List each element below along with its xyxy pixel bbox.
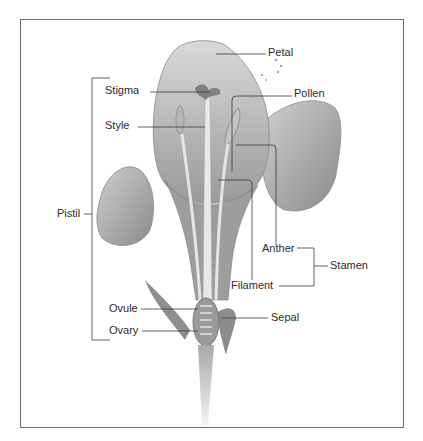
- label-pollen: Pollen: [294, 88, 325, 99]
- label-ovule: Ovule: [109, 303, 138, 314]
- label-stigma: Stigma: [105, 85, 139, 96]
- label-ovary: Ovary: [109, 325, 138, 336]
- stem: [198, 345, 214, 425]
- flower-illustration: [0, 0, 423, 441]
- label-filament: Filament: [231, 280, 273, 291]
- label-style: Style: [105, 120, 129, 131]
- left-petal: [97, 167, 154, 246]
- label-stamen: Stamen: [330, 260, 368, 271]
- label-petal: Petal: [268, 47, 293, 58]
- left-anther: [176, 106, 184, 134]
- upper-petal: [153, 41, 269, 204]
- left-sepal: [145, 280, 190, 340]
- label-sepal: Sepal: [271, 312, 299, 323]
- right-sepal: [218, 308, 236, 355]
- label-pistil: Pistil: [57, 208, 80, 219]
- label-anther: Anther: [262, 243, 294, 254]
- right-petal: [262, 101, 341, 211]
